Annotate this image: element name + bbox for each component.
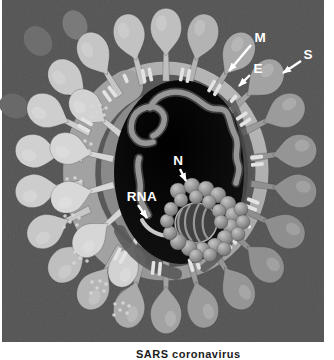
- label-rna: RNA: [127, 189, 158, 204]
- photo-caption: SARS coronavirus: [136, 348, 241, 360]
- label-n-protein: N: [173, 153, 183, 168]
- label-m-protein: M: [254, 30, 265, 45]
- label-e-protein: E: [253, 61, 262, 76]
- label-s-protein: S: [303, 47, 312, 62]
